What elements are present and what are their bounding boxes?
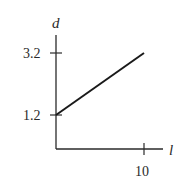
y-tick-label-3-2: 3.2 [23, 46, 41, 61]
y-tick-label-1-2: 1.2 [23, 108, 41, 123]
y-axis-label: d [52, 15, 60, 31]
data-line [56, 53, 144, 115]
x-axis-label: l [169, 142, 173, 158]
line-chart: d 3.2 1.2 l 10 [0, 0, 189, 186]
x-tick-label-10: 10 [135, 164, 149, 179]
